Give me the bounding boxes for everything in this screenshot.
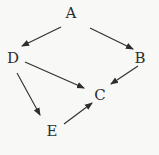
node-a: A bbox=[66, 6, 77, 21]
edge-b-to-c bbox=[111, 66, 138, 84]
edge-d-to-e bbox=[17, 73, 40, 115]
dag-diagram: A B C D E bbox=[0, 0, 159, 155]
edge-d-to-c bbox=[25, 62, 84, 88]
edge-e-to-c bbox=[64, 103, 92, 124]
node-c: C bbox=[94, 88, 105, 103]
node-b: B bbox=[134, 51, 145, 66]
edge-a-to-b bbox=[90, 28, 133, 49]
node-e: E bbox=[47, 124, 58, 139]
edges-layer bbox=[0, 0, 159, 155]
node-d: D bbox=[7, 51, 19, 66]
edge-a-to-d bbox=[22, 27, 61, 46]
